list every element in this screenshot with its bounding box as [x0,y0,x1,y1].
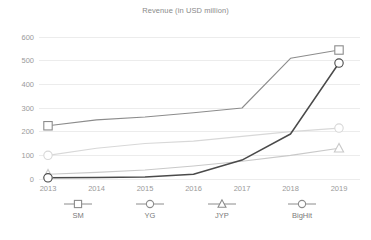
legend-label: JYP [215,211,229,220]
series-line-jyp [48,148,339,174]
legend-label: SM [72,211,83,220]
series-marker-sm [335,46,343,54]
x-axis-tick-label: 2013 [40,184,57,193]
series-marker-bighit [44,174,52,182]
gridlines-group [39,37,360,179]
legend-marker-circle-icon [132,198,168,210]
x-axis-tick-label: 2015 [137,184,154,193]
y-axis-tick-label: 100 [21,151,34,160]
x-axis-tick-label: 2017 [234,184,251,193]
legend-item-bighit[interactable]: BigHit [272,198,332,220]
legend-marker-triangle-icon [204,198,240,210]
series-markers-group [43,46,343,182]
series-line-yg [48,128,339,155]
series-marker-jyp [334,143,343,152]
y-axis-tick-label: 300 [21,104,34,113]
series-lines-group [48,50,339,178]
series-marker-sm [44,122,52,130]
y-axis-tick-label: 200 [21,127,34,136]
y-axis-tick-label: 400 [21,80,34,89]
x-axis-tick-label: 2019 [331,184,348,193]
legend-item-jyp[interactable]: JYP [192,198,252,220]
y-axis-tick-label: 0 [30,175,34,184]
series-marker-yg [44,151,52,159]
series-line-sm [48,50,339,126]
y-axis-tick-label: 500 [21,56,34,65]
series-marker-bighit [335,59,343,67]
legend-item-sm[interactable]: SM [48,198,108,220]
y-axis-tick-labels: 0100200300400500600 [21,33,34,184]
legend-item-yg[interactable]: YG [120,198,180,220]
legend-marker-square-icon [60,198,96,210]
series-marker-yg [335,124,343,132]
x-axis-tick-labels: 2013201420152016201720182019 [40,184,348,193]
x-axis-tick-label: 2014 [88,184,105,193]
legend-label: YG [145,211,156,220]
x-axis-tick-label: 2016 [185,184,202,193]
legend-label: BigHit [292,211,312,220]
x-axis-tick-label: 2018 [282,184,299,193]
legend-marker-circle-icon [284,198,320,210]
revenue-line-chart: Revenue (in USD million) 010020030040050… [0,0,371,240]
y-axis-tick-label: 600 [21,33,34,42]
chart-legend: SMYGJYPBigHit [0,198,371,232]
